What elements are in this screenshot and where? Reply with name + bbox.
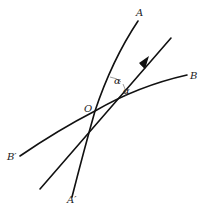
- label-a: A: [135, 7, 143, 18]
- label-origin: O: [84, 103, 92, 114]
- arrowhead-fill: [139, 56, 149, 69]
- label-b: B: [189, 70, 197, 81]
- direction-ray: [40, 38, 171, 189]
- label-b-prime: B′: [6, 151, 17, 162]
- curve-a-a-prime: [72, 21, 138, 197]
- diagram-canvas: A B B′ A′ O α α: [0, 0, 202, 203]
- label-alpha-upper: α: [114, 75, 121, 86]
- label-alpha-lower: α: [123, 85, 130, 96]
- label-a-prime: A′: [66, 194, 77, 203]
